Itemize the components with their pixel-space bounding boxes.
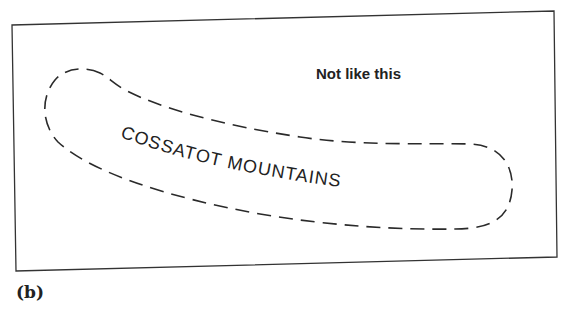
frame-border	[12, 11, 557, 271]
annotation-text: Not like this	[316, 65, 401, 82]
region-label-path: COSSATOT MOUNTAINS	[118, 122, 342, 191]
figure-canvas: Not like this COSSATOT MOUNTAINS	[0, 0, 566, 311]
region-label: COSSATOT MOUNTAINS	[118, 122, 342, 191]
figure-caption: (b)	[16, 282, 44, 302]
dashed-region-outline	[45, 69, 512, 229]
